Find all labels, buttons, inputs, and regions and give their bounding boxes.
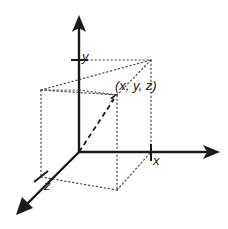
- coordinate-system-figure: y x z (x, y, z): [0, 0, 228, 229]
- x-axis-label: x: [153, 154, 160, 167]
- position-vector: [79, 93, 118, 152]
- point-coordinates-label: (x, y, z): [115, 79, 157, 92]
- y-axis-label: y: [82, 50, 89, 63]
- position-vector-line: [79, 99, 114, 152]
- axes-diagram-svg: [0, 0, 228, 229]
- z-axis-label: z: [44, 179, 51, 192]
- axis-lines: [25, 24, 211, 206]
- z-axis-line: [25, 152, 79, 206]
- box-edge-bottom-right: [117, 152, 151, 190]
